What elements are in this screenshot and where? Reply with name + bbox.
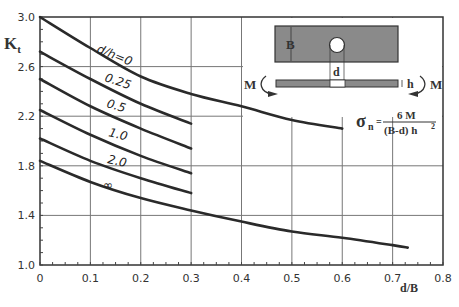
x-tick-label: 0 (37, 272, 44, 285)
hole-gap (330, 80, 345, 87)
x-tick-label: 0.7 (384, 272, 402, 285)
svg-text:6 M: 6 M (397, 109, 416, 121)
x-tick-label: 0.3 (182, 272, 200, 285)
width-label: B (286, 37, 295, 52)
stress-concentration-chart: 00.10.20.30.40.50.60.70.8 1.01.41.82.22.… (0, 0, 459, 307)
y-tick-label: 1.8 (18, 160, 36, 173)
curve-label-0.5: 0.5 (105, 96, 127, 115)
y-axis-label-sub: t (17, 43, 21, 55)
x-tick-label: 0.4 (233, 272, 251, 285)
x-tick-label: 0.1 (82, 272, 100, 285)
svg-text:n: n (368, 121, 374, 132)
x-tick-label: 0.2 (132, 272, 150, 285)
moment-right-label: M (430, 77, 442, 92)
curve-label-0: d/h=0 (95, 42, 135, 69)
thickness-label: h (407, 77, 414, 91)
x-axis-label: d/B (400, 281, 418, 295)
svg-text:σ: σ (356, 111, 366, 131)
moment-left-label: M (244, 77, 256, 92)
x-tick-label: 0.8 (434, 272, 452, 285)
curve-label-1.0: 1.0 (107, 125, 129, 143)
svg-text:=: = (376, 116, 382, 127)
x-tick-label: 0.5 (283, 272, 301, 285)
curve-label-infinity: ∞ (103, 178, 113, 192)
y-tick-label: 1.0 (18, 259, 36, 272)
y-tick-label: 3.0 (18, 11, 36, 24)
svg-text:(B-d) h: (B-d) h (384, 124, 417, 137)
svg-text:2: 2 (431, 122, 435, 131)
y-axis-label: Kt (4, 34, 21, 55)
y-tick-label: 2.6 (18, 61, 36, 74)
hole-icon (330, 38, 345, 53)
y-tick-label: 1.4 (18, 209, 36, 222)
y-tick-label: 2.2 (18, 110, 36, 123)
curve-5 (40, 161, 408, 248)
x-tick-label: 0.6 (334, 272, 352, 285)
hole-label: d (333, 65, 340, 79)
x-tick-labels: 00.10.20.30.40.50.60.70.8 (37, 272, 452, 285)
